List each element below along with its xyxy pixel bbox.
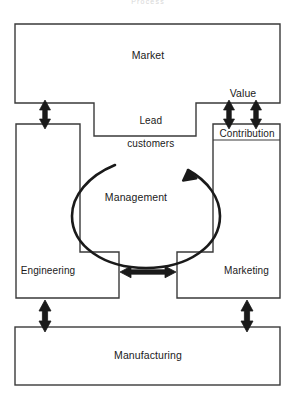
node-label-marketing: Marketing bbox=[213, 265, 280, 276]
process-diagram: Process Market Lead customers Value Cont… bbox=[0, 0, 296, 399]
diagram-title: Process bbox=[0, 0, 296, 6]
node-label-lead-customers: Lead customers bbox=[94, 104, 196, 160]
node-label-value: Value bbox=[205, 88, 281, 100]
lead-customers-line-1: Lead bbox=[139, 115, 162, 126]
lead-customers-line-2: customers bbox=[127, 138, 174, 149]
node-label-contribution: Contribution bbox=[214, 128, 280, 139]
node-label-engineering: Engineering bbox=[16, 265, 80, 276]
node-label-market: Market bbox=[0, 50, 296, 62]
management-cycle-arrow bbox=[72, 165, 220, 268]
node-label-manufacturing: Manufacturing bbox=[0, 350, 296, 362]
node-label-management: Management bbox=[76, 192, 196, 204]
